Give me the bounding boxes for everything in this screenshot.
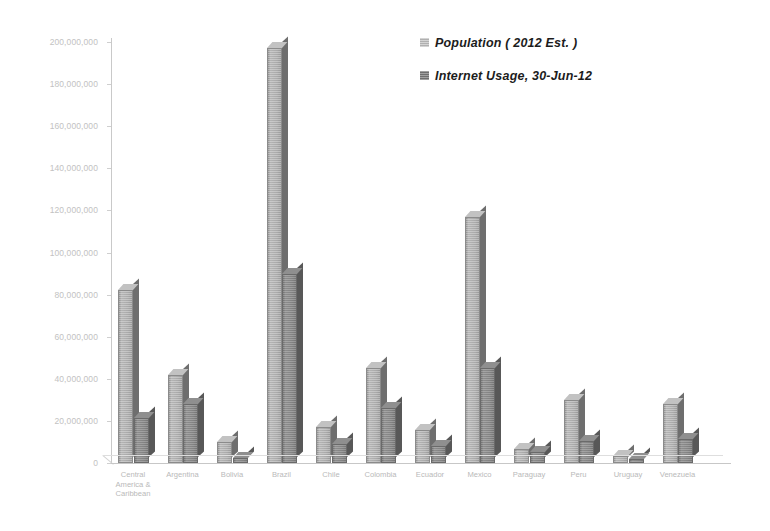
bar-population: [118, 290, 133, 463]
x-axis-label-line: Chile: [303, 470, 359, 480]
bar-front-face: [316, 427, 331, 463]
y-axis-tick-label: 60,000,000: [8, 332, 98, 342]
x-axis-label-line: Caribbean: [105, 489, 161, 499]
legend-label-population: Population ( 2012 Est. ): [435, 36, 577, 50]
x-axis-depth-line: [103, 455, 723, 456]
bar-internet-usage: [134, 418, 149, 463]
x-axis-category-label: Peru: [551, 470, 607, 480]
bar-side-face: [594, 430, 600, 457]
bar-front-face: [332, 444, 347, 463]
bar-population: [514, 449, 529, 463]
bar-side-face: [693, 427, 699, 457]
bar-front-face: [613, 456, 628, 463]
y-axis-tick-label: 20,000,000: [8, 416, 98, 426]
bar-front-face: [480, 368, 495, 463]
x-axis-label-line: Paraguay: [501, 470, 557, 480]
x-axis-label-line: Ecuador: [402, 470, 458, 480]
bar-internet-usage: [480, 368, 495, 463]
bar-front-face: [579, 441, 594, 463]
x-axis-category-label: CentralAmerica &Caribbean: [105, 470, 161, 499]
x-axis-category-label: Uruguay: [600, 470, 656, 480]
bar-population: [267, 48, 282, 463]
x-axis-category-label: Argentina: [155, 470, 211, 480]
bar-front-face: [267, 48, 282, 463]
legend-label-internet-usage: Internet Usage, 30-Jun-12: [435, 69, 592, 83]
legend-swatch-population: [420, 38, 429, 47]
bar-population: [366, 368, 381, 463]
bar-population: [613, 456, 628, 463]
x-axis-category-label: Venezuela: [650, 470, 706, 480]
x-axis-label-line: Central: [105, 470, 161, 480]
legend-item-internet-usage: Internet Usage, 30-Jun-12: [420, 69, 592, 83]
bar-side-face: [446, 435, 452, 457]
y-axis-tick-label: 140,000,000: [8, 163, 98, 173]
bar-front-face: [514, 449, 529, 463]
y-axis-tick-label: 160,000,000: [8, 121, 98, 131]
x-axis-label-line: Colombia: [353, 470, 409, 480]
x-axis-label-line: Peru: [551, 470, 607, 480]
y-axis-line: [111, 38, 112, 464]
x-axis-label-line: America &: [105, 480, 161, 490]
x-axis-category-label: Brazil: [254, 470, 310, 480]
bar-front-face: [282, 274, 297, 463]
bar-internet-usage: [678, 439, 693, 463]
bar-front-face: [168, 375, 183, 463]
legend-swatch-internet-usage: [420, 71, 429, 80]
bar-front-face: [415, 430, 430, 463]
bar-internet-usage: [579, 441, 594, 463]
x-axis-category-label: Chile: [303, 470, 359, 480]
bar-front-face: [118, 290, 133, 463]
bar-population: [316, 427, 331, 463]
bar-population: [415, 430, 430, 463]
bar-front-face: [564, 400, 579, 463]
x-axis-label-line: Bolivia: [204, 470, 260, 480]
x-axis-label-line: Argentina: [155, 470, 211, 480]
y-axis-tick-label: 180,000,000: [8, 79, 98, 89]
legend-item-population: Population ( 2012 Est. ): [420, 36, 592, 50]
bar-front-face: [217, 442, 232, 463]
bar-front-face: [678, 439, 693, 463]
x-axis-category-label: Colombia: [353, 470, 409, 480]
x-axis-category-label: Ecuador: [402, 470, 458, 480]
y-axis-tick-label: 80,000,000: [8, 290, 98, 300]
bar-front-face: [134, 418, 149, 463]
x-axis-category-label: Mexico: [452, 470, 508, 480]
x-axis-label-line: Mexico: [452, 470, 508, 480]
bar-front-face: [366, 368, 381, 463]
bar-side-face: [297, 262, 303, 457]
x-axis-line: [111, 463, 731, 464]
bar-side-face: [347, 433, 353, 457]
x-axis-category-label: Paraguay: [501, 470, 557, 480]
bar-population: [217, 442, 232, 463]
bar-front-face: [465, 217, 480, 463]
y-axis-tick-label: 0: [8, 458, 98, 468]
x-axis-label-line: Venezuela: [650, 470, 706, 480]
bar-population: [168, 375, 183, 463]
bar-internet-usage: [332, 444, 347, 463]
y-axis-tick-label: 200,000,000: [8, 37, 98, 47]
y-axis-tick-label: 100,000,000: [8, 248, 98, 258]
chart-legend: Population ( 2012 Est. ) Internet Usage,…: [420, 36, 592, 102]
y-axis-tick-label: 40,000,000: [8, 374, 98, 384]
bar-chart: 200,000,000180,000,000160,000,000140,000…: [0, 0, 770, 531]
x-axis-label-line: Uruguay: [600, 470, 656, 480]
bar-population: [465, 217, 480, 463]
y-axis-tick-label: 120,000,000: [8, 205, 98, 215]
bar-internet-usage: [282, 274, 297, 463]
bar-side-face: [495, 357, 501, 457]
x-axis-label-line: Brazil: [254, 470, 310, 480]
bar-population: [564, 400, 579, 463]
x-axis-category-label: Bolivia: [204, 470, 260, 480]
